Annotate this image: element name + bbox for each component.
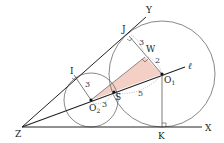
label-S: S <box>115 92 121 102</box>
geometry-figure: Z X Y J W I S K ℓ O1 O2 3 2 3 3 5 <box>0 0 224 143</box>
label-O2: O2 <box>89 103 100 114</box>
label-l: ℓ <box>188 61 192 71</box>
label-Y: Y <box>145 5 153 15</box>
label-W: W <box>146 44 156 54</box>
label-J: J <box>121 24 126 34</box>
measure-O2S: 3 <box>102 100 107 109</box>
measure-IO2: 3 <box>85 80 90 89</box>
point-O2 <box>89 98 92 101</box>
shaded-triangle <box>91 57 162 100</box>
label-X: X <box>205 123 212 133</box>
right-angle-K <box>162 123 166 127</box>
measure-SO1: 5 <box>138 89 143 98</box>
label-I: I <box>70 66 74 76</box>
label-O1: O1 <box>164 75 175 86</box>
measure-WO1: 2 <box>155 56 160 65</box>
label-K: K <box>158 131 165 141</box>
label-Z: Z <box>15 129 21 139</box>
diagram-canvas: Z X Y J W I S K ℓ O1 O2 3 2 3 3 5 <box>0 0 224 143</box>
measure-JW: 3 <box>139 38 144 47</box>
